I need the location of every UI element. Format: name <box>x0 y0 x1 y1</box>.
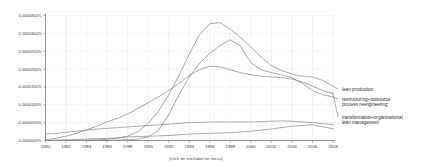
x-tick-label: 1988 <box>123 144 133 149</box>
legend-item-label[interactable]: lean production <box>342 87 374 92</box>
legend-leader-lines <box>333 86 338 117</box>
x-tick-label: 1998 <box>226 144 236 149</box>
x-tick-label: 1996 <box>205 144 215 149</box>
x-tick-label: 2004 <box>287 144 297 149</box>
x-tick-label: 1994 <box>184 144 194 149</box>
x-tick-label: 1992 <box>164 144 174 149</box>
x-tick-label: 1986 <box>102 144 112 149</box>
legend-leader-line <box>333 86 338 89</box>
legend-item-label[interactable]: lean management <box>342 120 379 125</box>
y-tick-label: 0.0000100% <box>19 102 42 107</box>
x-tick-label: 1990 <box>143 144 153 149</box>
y-tick-label: 0.0000350% <box>19 13 42 18</box>
x-tick-label: 1982 <box>61 144 71 149</box>
x-tick-labels: 1980198219841986198819901992199419961998… <box>41 144 339 149</box>
y-tick-label: 0.0000250% <box>19 49 42 54</box>
y-tick-labels: 0.0000350%0.0000300%0.0000250%0.0000200%… <box>19 13 42 143</box>
y-tick-label: 0.0000050% <box>19 120 42 125</box>
legend[interactable]: lean productionrestructuring+outsourcepr… <box>342 87 403 126</box>
legend-item-label[interactable]: process reengineering <box>342 102 388 107</box>
legend-leader-line <box>333 93 338 117</box>
x-tick-label: 2006 <box>308 144 318 149</box>
y-tick-label: 0.0000150% <box>19 84 42 89</box>
x-tick-label: 2008 <box>328 144 338 149</box>
chart-caption: (click on line/label for focus) <box>169 156 224 161</box>
legend-item-label[interactable]: restructuring+outsource <box>342 97 391 102</box>
y-tick-label: 0.0000000% <box>19 138 42 143</box>
y-tick-label: 0.0000300% <box>19 31 42 36</box>
legend-item-label[interactable]: transformation+organizational <box>342 115 403 120</box>
x-tick-label: 1980 <box>41 144 51 149</box>
x-tick-label: 2002 <box>267 144 277 149</box>
y-axis <box>43 14 45 141</box>
chart-canvas[interactable]: 0.0000350%0.0000300%0.0000250%0.0000200%… <box>0 0 430 166</box>
ngram-chart[interactable]: 0.0000350%0.0000300%0.0000250%0.0000200%… <box>0 0 430 166</box>
y-tick-label: 0.0000200% <box>19 67 42 72</box>
x-tick-label: 1984 <box>82 144 92 149</box>
x-tick-label: 2000 <box>246 144 256 149</box>
